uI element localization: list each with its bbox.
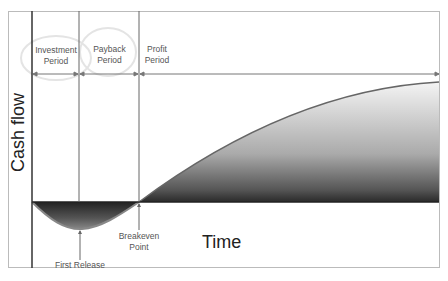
payback-period-label: Payback Period bbox=[80, 44, 139, 66]
label-line: Payback bbox=[80, 44, 139, 55]
label-line: Profit bbox=[142, 44, 172, 55]
profit-period-label: Profit Period bbox=[142, 44, 172, 66]
first-release-label: First Release bbox=[50, 260, 110, 271]
y-axis-label: Cash flow bbox=[8, 93, 29, 172]
label-line: Investment bbox=[33, 45, 79, 56]
label-line: Period bbox=[142, 55, 172, 66]
profit-area bbox=[139, 82, 439, 202]
x-axis-label: Time bbox=[202, 232, 241, 253]
label-line: Breakeven bbox=[114, 231, 164, 242]
investment-period-label: Investment Period bbox=[33, 45, 79, 67]
label-line: Period bbox=[33, 56, 79, 67]
label-line: Point bbox=[114, 242, 164, 253]
label-line: Period bbox=[80, 55, 139, 66]
breakeven-label: Breakeven Point bbox=[114, 231, 164, 253]
